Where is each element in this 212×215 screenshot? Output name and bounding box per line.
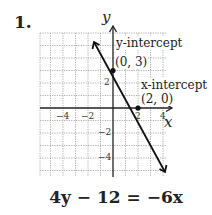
x-tick-neg2: −2 [81, 111, 94, 121]
equation-label: 4y − 12 = −6x [0, 187, 212, 207]
coordinate-graph [0, 0, 212, 215]
x-tick-neg4: −4 [56, 111, 69, 121]
y-intercept-label: y-intercept [116, 36, 182, 50]
y-tick-2: 2 [104, 77, 110, 87]
x-intercept-coords: (2, 0) [141, 92, 173, 106]
x-intercept-point [135, 105, 140, 110]
x-intercept-label: x-intercept [141, 78, 207, 92]
y-tick-neg4: −4 [98, 152, 111, 162]
y-axis-label: y [102, 8, 110, 26]
x-tick-4: 4 [160, 111, 166, 121]
y-intercept-coords: (0, 3) [115, 55, 147, 69]
y-tick-neg2: −2 [98, 127, 111, 137]
x-tick-2: 2 [135, 111, 141, 121]
